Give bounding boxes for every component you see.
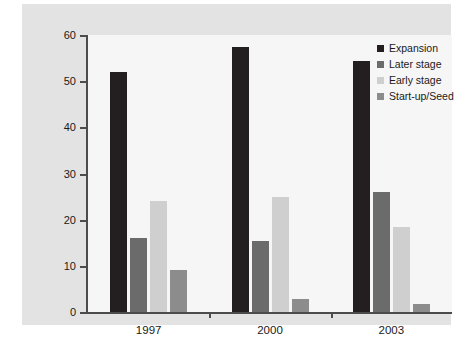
legend-item[interactable]: Start-up/Seed xyxy=(377,89,457,104)
y-tick-label: 0 xyxy=(70,306,76,318)
bar xyxy=(272,197,289,312)
bar xyxy=(130,238,147,312)
x-tick-label: 2000 xyxy=(257,324,283,336)
bar xyxy=(393,227,410,312)
y-tick-mark xyxy=(80,127,88,129)
legend-swatch-icon xyxy=(377,45,384,52)
chart-panel: 0102030405060 199720002003 ExpansionLate… xyxy=(22,4,451,325)
y-tick-label: 50 xyxy=(64,75,76,87)
figure: 0102030405060 199720002003 ExpansionLate… xyxy=(0,0,457,350)
legend-item[interactable]: Expansion xyxy=(377,41,457,56)
legend-item[interactable]: Early stage xyxy=(377,73,457,88)
y-tick-label: 60 xyxy=(64,29,76,41)
x-tick-mark xyxy=(331,312,333,318)
y-tick-label: 20 xyxy=(64,214,76,226)
bar xyxy=(252,241,269,312)
bar xyxy=(413,304,430,312)
y-tick-mark xyxy=(80,174,88,176)
legend-swatch-icon xyxy=(377,77,384,84)
y-tick-mark xyxy=(80,220,88,222)
y-tick-label: 30 xyxy=(64,168,76,180)
legend-item-label: Early stage xyxy=(389,75,442,86)
bar xyxy=(170,270,187,312)
legend-swatch-icon xyxy=(377,61,384,68)
x-tick-mark xyxy=(209,312,211,318)
y-tick-mark xyxy=(80,312,88,314)
y-tick-mark xyxy=(80,35,88,37)
y-tick-mark xyxy=(80,81,88,83)
bar xyxy=(353,61,370,312)
legend-swatch-icon xyxy=(377,93,384,100)
x-tick-label: 2003 xyxy=(379,324,405,336)
bar xyxy=(373,192,390,312)
legend-item-label: Start-up/Seed xyxy=(389,91,454,102)
y-tick-mark xyxy=(80,266,88,268)
legend-item[interactable]: Later stage xyxy=(377,57,457,72)
chart-legend: ExpansionLater stageEarly stageStart-up/… xyxy=(377,41,457,105)
legend-item-label: Later stage xyxy=(389,59,442,70)
bar xyxy=(110,72,127,312)
edge-clipped-text xyxy=(0,168,14,190)
x-tick-label: 1997 xyxy=(136,324,162,336)
y-tick-label: 40 xyxy=(64,121,76,133)
bar xyxy=(232,47,249,312)
bar xyxy=(292,299,309,312)
bar xyxy=(150,201,167,312)
y-tick-label: 10 xyxy=(64,260,76,272)
legend-item-label: Expansion xyxy=(389,43,438,54)
